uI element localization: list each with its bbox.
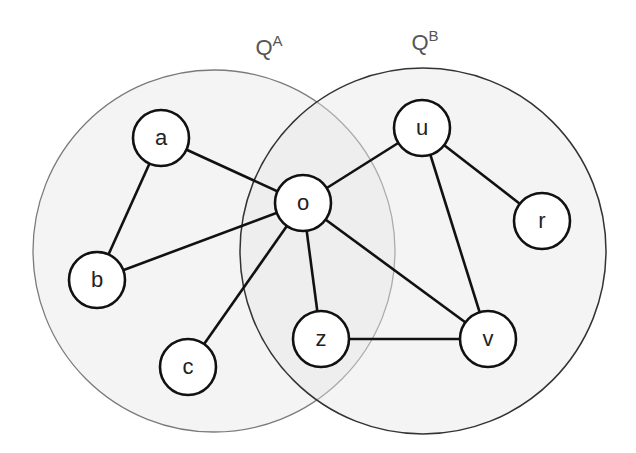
node-label: o [297,190,309,215]
set-labels: QAQB [255,27,438,60]
graph-diagram: abcourzv QAQB [0,0,636,453]
node-b: b [69,252,125,308]
node-label: u [416,115,428,140]
node-c: c [160,339,216,395]
node-u: u [394,100,450,156]
node-label: a [155,125,168,150]
set-regions [33,68,606,434]
node-v: v [460,311,516,367]
node-o: o [275,175,331,231]
set-label-a: QA [255,32,282,60]
node-label: c [183,354,194,379]
node-label: z [316,326,327,351]
set-label-b: QB [411,27,438,55]
node-r: r [514,193,570,249]
node-label: b [91,267,103,292]
node-a: a [133,110,189,166]
node-label: v [483,326,494,351]
node-label: r [538,208,545,233]
node-z: z [293,311,349,367]
